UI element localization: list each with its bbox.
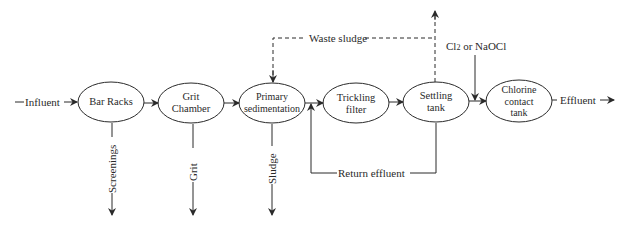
screenings-label: Screenings [106,145,118,193]
primary-sedimentation-label: Primary sedimentation [238,91,306,115]
grit-label: Grit [187,163,199,181]
settling-tank-label: Settling tank [404,90,468,114]
bar-racks-label: Bar Racks [80,96,142,108]
waste-sludge-line [273,12,435,82]
influent-label: Influent [25,96,60,108]
chlorine-contact-tank-label: Chlorine contact tank [487,84,551,119]
chemical-input-label: Cl2 or NaOCl [446,40,506,54]
return-effluent-line-right [410,123,436,173]
trickling-filter-label: Trickling filter [324,92,388,116]
sludge-label: Sludge [266,153,278,184]
grit-chamber-label: Grit Chamber [159,91,223,115]
effluent-label: Effluent [560,94,596,106]
return-effluent-label: Return effluent [338,167,405,179]
waste-sludge-label: Waste sludge [309,32,367,44]
